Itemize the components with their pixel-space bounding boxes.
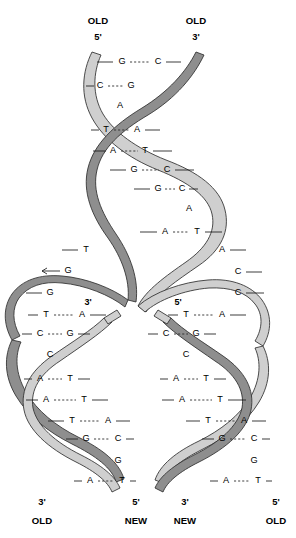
- base-letter: T: [69, 415, 75, 425]
- bottom-left-branch-right-label: 5' NEW: [125, 496, 148, 525]
- base-letter: G: [192, 328, 199, 338]
- base-pair-row: A T: [26, 394, 108, 404]
- base-unpaired-row: G: [42, 265, 72, 275]
- base-unpaired-row: T: [62, 244, 89, 254]
- base-letter: G: [66, 328, 73, 338]
- base-letter: C: [235, 266, 242, 276]
- dna-replication-diagram: G C C G A T A A T: [0, 0, 296, 538]
- base-letter: T: [217, 394, 223, 404]
- base-letter: A: [223, 475, 230, 485]
- base-letter: G: [114, 455, 121, 465]
- base-pair-row: A T: [140, 226, 222, 236]
- base-unpaired-row: G: [114, 455, 121, 465]
- base-letter: A: [134, 124, 141, 134]
- base-letter: C: [47, 349, 54, 359]
- base-letter: T: [142, 145, 148, 155]
- base-letter: T: [255, 475, 261, 485]
- base-letter: A: [117, 100, 124, 110]
- base-unpaired-row: A: [186, 203, 193, 213]
- base-letter: A: [173, 373, 180, 383]
- base-unpaired-row: C: [235, 266, 262, 276]
- base-letter: A: [105, 415, 112, 425]
- base-letter: T: [194, 226, 200, 236]
- bottom-left-branch-left-label: 3' OLD: [32, 496, 52, 525]
- base-letter: G: [130, 164, 137, 174]
- base-letter: A: [79, 309, 86, 319]
- base-letter: G: [154, 183, 161, 193]
- base-letter: C: [115, 433, 122, 443]
- bottom-right-branch-right-label: 5' OLD: [266, 496, 286, 525]
- base-pair-row: G C: [97, 56, 181, 66]
- right-new-strand-5prime-label: 5': [174, 297, 181, 307]
- prime-end-label: 3': [38, 496, 45, 507]
- prime-end-label: 3': [181, 496, 188, 507]
- strand-age-label: OLD: [186, 15, 206, 26]
- strand-age-label: OLD: [32, 515, 52, 526]
- base-letter: G: [127, 80, 134, 90]
- strand-age-label: OLD: [88, 15, 108, 26]
- base-pair-row: A T: [210, 475, 272, 485]
- strand-age-label: OLD: [266, 515, 286, 526]
- parent-strand-light-ribbon: [84, 52, 227, 312]
- base-letter: T: [83, 244, 89, 254]
- base-letter: A: [110, 145, 117, 155]
- base-letter: C: [179, 183, 186, 193]
- top-right-end-label: OLD 3': [186, 15, 206, 43]
- base-letter: A: [241, 415, 248, 425]
- base-letter: A: [43, 394, 50, 404]
- base-unpaired-row: G: [250, 455, 257, 465]
- base-pair-row: A T: [160, 373, 226, 383]
- strand-age-label: NEW: [174, 515, 197, 526]
- base-pair-row: A T: [162, 394, 246, 404]
- base-letter: T: [67, 373, 73, 383]
- base-unpaired-row: G: [26, 287, 54, 297]
- base-letter: A: [162, 226, 169, 236]
- base-letter: T: [103, 124, 109, 134]
- base-letter: C: [164, 164, 171, 174]
- base-letter: C: [235, 287, 242, 297]
- prime-end-label: 5': [272, 496, 279, 507]
- base-letter: C: [183, 349, 190, 359]
- base-letter: G: [218, 433, 225, 443]
- base-letter: A: [219, 309, 226, 319]
- base-letter: C: [37, 328, 44, 338]
- prime-end-label: 5': [94, 31, 101, 42]
- base-pair-row: T A: [48, 415, 130, 425]
- base-letter: A: [186, 203, 193, 213]
- base-letter: A: [87, 475, 94, 485]
- prime-end-label: 5': [132, 496, 139, 507]
- base-pair-row: T A: [168, 309, 246, 319]
- base-unpaired-row: A: [117, 100, 124, 110]
- left-template-unpaired-bases: T G G: [26, 244, 89, 297]
- bottom-right-branch-left-label: 3' NEW: [174, 496, 197, 525]
- base-letter: T: [43, 309, 49, 319]
- base-letter: C: [155, 56, 162, 66]
- base-letter: C: [97, 80, 104, 90]
- base-letter: G: [118, 56, 125, 66]
- base-letter: T: [119, 475, 125, 485]
- base-unpaired-row: A: [219, 244, 246, 254]
- base-unpaired-row: C: [47, 349, 54, 359]
- base-letter: T: [183, 309, 189, 319]
- base-pair-row: T A: [28, 309, 106, 319]
- base-letter: C: [251, 433, 258, 443]
- top-left-end-label: OLD 5': [88, 15, 108, 43]
- base-letter: A: [219, 244, 226, 254]
- base-letter: T: [81, 394, 87, 404]
- prime-end-label: 3': [192, 31, 199, 42]
- base-letter: G: [82, 433, 89, 443]
- strand-age-label: NEW: [125, 515, 148, 526]
- base-unpaired-row: C: [183, 349, 190, 359]
- base-letter: G: [250, 455, 257, 465]
- base-letter: T: [205, 415, 211, 425]
- base-letter: G: [64, 265, 71, 275]
- base-letter: T: [203, 373, 209, 383]
- base-letter: G: [46, 287, 53, 297]
- left-new-strand-3prime-label: 3': [84, 297, 91, 307]
- dna-replication-figure: G C C G A T A A T: [0, 0, 296, 538]
- base-letter: A: [179, 394, 186, 404]
- base-letter: C: [163, 328, 170, 338]
- base-letter: A: [37, 373, 44, 383]
